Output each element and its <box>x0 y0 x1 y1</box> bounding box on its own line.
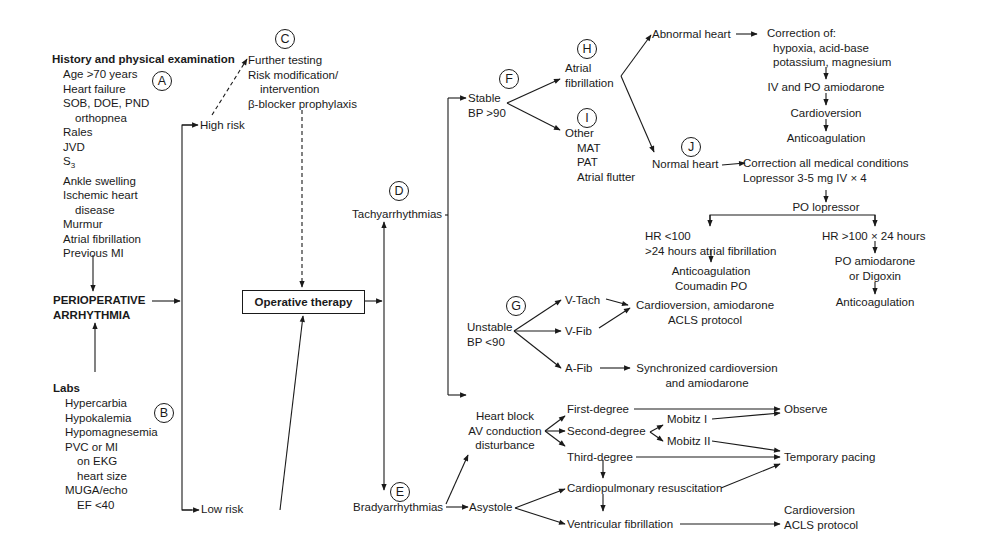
cardioversion-step: Cardioversion <box>756 106 896 121</box>
operative-therapy-box: Operative therapy <box>242 290 365 314</box>
label-circle-c: C <box>275 29 295 49</box>
po-amiodarone-digoxin: PO amiodarone or Digoxin <box>825 254 925 283</box>
perioperative-arrhythmia-title: PERIOPERATIVE ARRHYTHMIA <box>53 293 145 322</box>
label-circle-a: A <box>152 71 172 91</box>
vtach-label: V-Tach <box>565 293 600 308</box>
second-degree-label: Second-degree <box>567 424 646 439</box>
mobitz-2-label: Mobitz II <box>667 434 710 449</box>
label-circle-j: J <box>681 137 701 157</box>
first-degree-label: First-degree <box>567 402 629 417</box>
other-list: Other MAT PAT Atrial flutter <box>565 126 635 184</box>
cpr-label: Cardiopulmonary resuscitation <box>567 481 722 496</box>
labs-item: EF <40 <box>65 498 158 513</box>
history-item-s3: S3 <box>63 154 149 174</box>
history-item: JVD <box>63 140 149 155</box>
anticoagulation-coumadin: Anticoagulation Coumadin PO <box>661 264 761 293</box>
history-item: Murmur <box>63 217 149 232</box>
heart-block-label: Heart block AV conduction disturbance <box>462 409 548 453</box>
abnormal-correction: Correction of: hypoxia, acid-base potass… <box>767 26 891 70</box>
high-risk-actions-list: Further testing Risk modification/ inter… <box>248 53 357 111</box>
hr-greater-100: HR >100 × 24 hours <box>822 229 926 244</box>
observe-label: Observe <box>784 402 827 417</box>
history-item: Previous MI <box>63 246 149 261</box>
anticoagulation-step: Anticoagulation <box>756 131 896 146</box>
labs-item: PVC or MI <box>65 440 158 455</box>
history-item: Ankle swelling <box>63 174 149 189</box>
label-circle-d: D <box>389 181 409 201</box>
mobitz-1-label: Mobitz I <box>667 412 707 427</box>
third-degree-label: Third-degree <box>567 450 633 465</box>
normal-correction: Correction all medical conditions Lopres… <box>743 156 909 185</box>
label-circle-e: E <box>390 482 410 502</box>
tachyarrhythmias-label: Tachyarrhythmias <box>352 207 442 222</box>
hr-less-100: HR <100 >24 hours atrial fibrillation <box>645 229 776 258</box>
history-item: Rales <box>63 125 149 140</box>
history-item: disease <box>63 203 149 218</box>
label-circle-h: H <box>577 39 597 59</box>
high-risk-label: High risk <box>200 118 245 133</box>
temporary-pacing-label: Temporary pacing <box>784 450 875 465</box>
label-circle-g: G <box>506 296 526 316</box>
history-item: Heart failure <box>63 82 149 97</box>
labs-item: Hypomagnesemia <box>65 425 158 440</box>
stable-label: Stable BP >90 <box>468 91 506 120</box>
history-item: Atrial fibrillation <box>63 232 149 247</box>
history-list: Age >70 years Heart failure SOB, DOE, PN… <box>63 67 149 261</box>
labs-item: MUGA/echo <box>65 483 158 498</box>
label-circle-i: I <box>577 108 597 128</box>
history-item: orthopnea <box>63 111 149 126</box>
labs-item: heart size <box>65 469 158 484</box>
arrhythmia-flowchart: History and physical examination A Age >… <box>0 0 981 558</box>
labs-item: Hypokalemia <box>65 411 158 426</box>
cardioversion-amiodarone: Cardioversion, amiodarone ACLS protocol <box>630 298 780 327</box>
cardioversion-acls: Cardioversion ACLS protocol <box>784 503 858 532</box>
low-risk-label: Low risk <box>201 502 243 517</box>
history-title: History and physical examination <box>52 52 235 67</box>
normal-heart-label: Normal heart <box>652 157 718 172</box>
po-lopressor: PO lopressor <box>776 200 876 215</box>
labs-title: Labs <box>53 381 80 396</box>
unstable-label: Unstable BP <90 <box>467 320 512 349</box>
anticoagulation-right: Anticoagulation <box>825 295 925 310</box>
afib-unstable-label: A-Fib <box>565 361 592 376</box>
label-circle-f: F <box>499 69 519 89</box>
history-item: Age >70 years <box>63 67 149 82</box>
abnormal-heart-label: Abnormal heart <box>652 27 731 42</box>
bradyarrhythmias-label: Bradyarrhythmias <box>353 500 443 515</box>
ventricular-fibrillation-label: Ventricular fibrillation <box>567 517 673 532</box>
asystole-label: Asystole <box>469 500 512 515</box>
history-item: SOB, DOE, PND <box>63 96 149 111</box>
vfib-label: V-Fib <box>565 324 592 339</box>
synchronized-cardioversion: Synchronized cardioversion and amiodaron… <box>632 361 782 390</box>
labs-item: on EKG <box>65 454 158 469</box>
iv-po-amiodarone: IV and PO amiodarone <box>756 80 896 95</box>
history-item: Ischemic heart <box>63 188 149 203</box>
labs-item: Hypercarbia <box>65 396 158 411</box>
labs-list: Hypercarbia Hypokalemia Hypomagnesemia P… <box>65 396 158 512</box>
atrial-fibrillation-label: Atrial fibrillation <box>565 61 614 90</box>
